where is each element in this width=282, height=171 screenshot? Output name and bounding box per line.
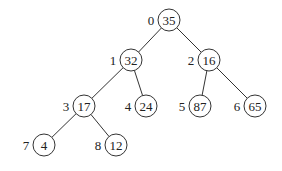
node-index-label: 2 [188, 53, 195, 68]
tree-edge [139, 28, 162, 52]
node-value: 32 [125, 53, 138, 68]
binary-tree-diagram: 35032116217324487565647128 [0, 0, 282, 171]
tree-edge [217, 68, 247, 98]
tree-node: 656 [234, 95, 266, 117]
node-index-label: 8 [95, 138, 102, 153]
tree-edge [92, 68, 123, 99]
tree-node: 244 [125, 95, 157, 117]
node-value: 65 [249, 99, 262, 114]
tree-edge [134, 70, 142, 95]
tree-edge [177, 28, 201, 52]
tree-edge [202, 71, 207, 95]
node-value: 87 [194, 99, 208, 114]
node-index-label: 4 [125, 99, 132, 114]
node-index-label: 6 [234, 99, 241, 114]
node-index-label: 0 [148, 13, 155, 28]
tree-node: 128 [95, 134, 127, 156]
node-value: 24 [140, 99, 154, 114]
node-value: 12 [110, 138, 123, 153]
node-index-label: 3 [63, 99, 70, 114]
tree-nodes: 35032116217324487565647128 [23, 9, 266, 156]
tree-node: 47 [23, 134, 55, 156]
tree-edges [52, 28, 247, 138]
node-index-label: 5 [179, 99, 186, 114]
node-value: 4 [41, 138, 48, 153]
node-value: 17 [78, 99, 92, 114]
node-index-label: 7 [23, 138, 30, 153]
node-value: 16 [203, 53, 217, 68]
tree-node: 321 [110, 49, 142, 71]
tree-node: 350 [148, 9, 180, 31]
tree-edge [91, 115, 109, 137]
node-value: 35 [163, 13, 176, 28]
tree-node: 875 [179, 95, 211, 117]
tree-node: 173 [63, 95, 95, 117]
tree-edge [52, 114, 76, 138]
tree-node: 162 [188, 49, 220, 71]
node-index-label: 1 [110, 53, 117, 68]
